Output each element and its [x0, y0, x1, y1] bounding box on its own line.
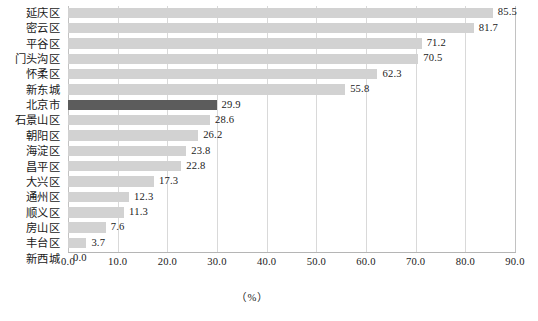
category-label: 朝阳区: [26, 129, 60, 144]
bar: [68, 100, 217, 110]
x-axis-tick: 80.0: [456, 254, 475, 270]
bar-value-label: 71.2: [427, 36, 446, 51]
category-label: 延庆区: [26, 6, 60, 21]
category-label: 石景山区: [15, 113, 60, 128]
bar-value-label: 81.7: [479, 21, 498, 36]
bar-value-label: 11.3: [129, 205, 148, 220]
bar-chart: 延庆区密云区平谷区门头沟区怀柔区新东城北京市石景山区朝阳区海淀区昌平区大兴区通州…: [0, 0, 538, 321]
bar-row: 12.3: [68, 190, 515, 205]
bar-value-label: 7.6: [111, 220, 125, 235]
x-axis-tick-label: 0.0: [61, 254, 75, 270]
category-label: 顺义区: [26, 206, 60, 221]
category-label: 新西城: [26, 252, 60, 267]
x-axis-tick: 70.0: [406, 254, 425, 270]
x-axis-tick-label: 90.0: [505, 254, 524, 270]
bar: [68, 38, 422, 48]
category-label: 通州区: [26, 190, 60, 205]
bar: [68, 69, 377, 79]
bar: [68, 54, 418, 64]
bar: [68, 161, 181, 171]
bar-value-label: 62.3: [382, 67, 401, 82]
bar-row: 55.8: [68, 83, 515, 98]
category-label: 密云区: [26, 21, 60, 36]
category-label: 海淀区: [26, 144, 60, 159]
bar: [68, 84, 345, 94]
bar: [68, 192, 129, 202]
x-axis-tick-label: 30.0: [207, 254, 226, 270]
bar-row: 11.3: [68, 206, 515, 221]
bar-row: 71.2: [68, 37, 515, 52]
x-axis-tick: 20.0: [158, 254, 177, 270]
bar: [68, 207, 124, 217]
bar: [68, 176, 154, 186]
bar-value-label: 12.3: [134, 190, 153, 205]
bar: [68, 222, 106, 232]
bar-row: 22.8: [68, 160, 515, 175]
x-axis-tick: 0.0: [61, 254, 75, 270]
category-label: 门头沟区: [15, 52, 60, 67]
bar-value-label: 26.2: [203, 128, 222, 143]
x-axis-line: [68, 252, 516, 253]
x-axis-tick: 90.0: [505, 254, 524, 270]
bar-row: 17.3: [68, 175, 515, 190]
bar-value-label: 28.6: [215, 113, 234, 128]
bar-series: 85.581.771.270.562.355.829.928.626.223.8…: [68, 6, 515, 252]
category-label: 昌平区: [26, 160, 60, 175]
caption-sliver: [90, 316, 420, 321]
bar-value-label: 22.8: [186, 159, 205, 174]
bar: [68, 130, 198, 140]
category-axis: 延庆区密云区平谷区门头沟区怀柔区新东城北京市石景山区朝阳区海淀区昌平区大兴区通州…: [0, 6, 64, 252]
category-label: 怀柔区: [26, 67, 60, 82]
category-label: 平谷区: [26, 37, 60, 52]
value-axis: 0.010.020.030.040.050.060.070.080.090.0: [68, 254, 516, 272]
bar-row: 29.9: [68, 98, 515, 113]
x-axis-tick-label: 10.0: [108, 254, 127, 270]
bar: [68, 8, 493, 18]
bar-value-label: 55.8: [350, 82, 369, 97]
bar-value-label: 3.7: [91, 236, 105, 251]
bar-row: 85.5: [68, 6, 515, 21]
x-axis-tick-label: 70.0: [406, 254, 425, 270]
bar-row: 62.3: [68, 67, 515, 82]
plot-area: 85.581.771.270.562.355.829.928.626.223.8…: [68, 6, 515, 252]
x-axis-tick-label: 50.0: [307, 254, 326, 270]
x-axis-tick-label: 40.0: [257, 254, 276, 270]
bar-row: 81.7: [68, 21, 515, 36]
bar: [68, 146, 186, 156]
bar-value-label: 70.5: [423, 51, 442, 66]
x-axis-tick: 30.0: [207, 254, 226, 270]
x-axis-tick-label: 80.0: [456, 254, 475, 270]
bar-value-label: 29.9: [222, 98, 241, 113]
bar-row: 3.7: [68, 236, 515, 251]
x-axis-tick-label: 20.0: [158, 254, 177, 270]
bar: [68, 238, 86, 248]
category-label: 大兴区: [26, 175, 60, 190]
bar-value-label: 23.8: [191, 144, 210, 159]
gridline: [515, 6, 516, 252]
bar-row: 7.6: [68, 221, 515, 236]
category-label: 新东城: [26, 83, 60, 98]
x-axis-tick-label: 60.0: [356, 254, 375, 270]
x-axis-tick: 50.0: [307, 254, 326, 270]
category-label: 房山区: [26, 221, 60, 236]
bar-row: 70.5: [68, 52, 515, 67]
x-axis-tick: 60.0: [356, 254, 375, 270]
bar: [68, 23, 474, 33]
x-axis-tick: 10.0: [108, 254, 127, 270]
category-label: 丰台区: [26, 236, 60, 251]
category-label: 北京市: [26, 98, 60, 113]
bar-row: 23.8: [68, 144, 515, 159]
bar-row: 28.6: [68, 113, 515, 128]
x-axis-tick: 40.0: [257, 254, 276, 270]
bar-value-label: 85.5: [498, 5, 517, 20]
bar: [68, 115, 210, 125]
axis-unit-label: （%）: [236, 289, 268, 304]
bar-value-label: 17.3: [159, 174, 178, 189]
bar-row: 26.2: [68, 129, 515, 144]
